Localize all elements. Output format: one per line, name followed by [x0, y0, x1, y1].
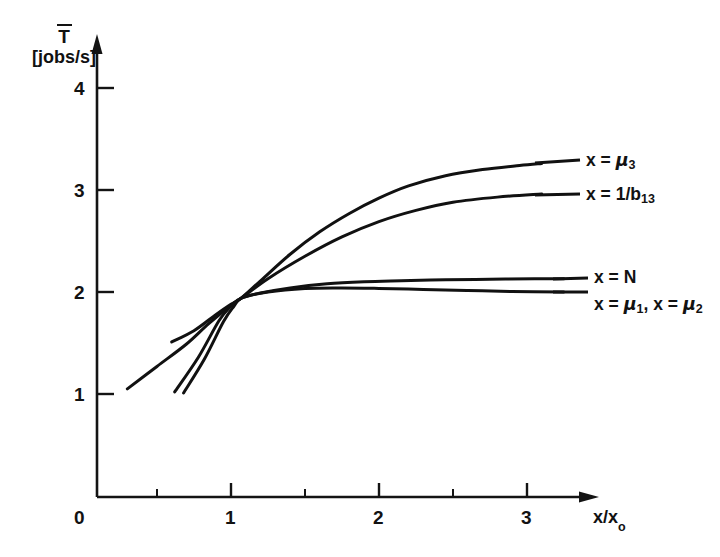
y-tick-label-4: 4: [74, 79, 85, 98]
leader-n: [553, 278, 588, 279]
series-label-n: x = N: [594, 269, 636, 287]
y-axis-ticks: [97, 88, 114, 394]
series-label-mu12-symbol2: μ: [683, 294, 696, 314]
x-axis-ticks: [231, 483, 527, 497]
y-tick-label-3: 3: [74, 181, 85, 200]
x-axis-title: x/xo: [593, 508, 626, 531]
label-leader-lines: [535, 160, 588, 292]
series-label-b13-symbol: b: [630, 184, 641, 204]
series-label-mu3: x = μ3: [586, 152, 636, 170]
x-tick-label-2: 2: [373, 508, 384, 527]
series-label-mu3-symbol: μ: [616, 150, 629, 170]
x-axis-title-main: x/x: [593, 507, 618, 527]
x-axis-title-sub: o: [618, 520, 626, 534]
series-label-b13-prefix: x = 1/: [586, 184, 630, 204]
series-label-mu12-symbol1: μ: [624, 294, 637, 314]
leader-b13: [535, 194, 580, 195]
y-tick-label-2: 2: [74, 283, 85, 302]
series-label-mu12: x = μ1, x = μ2: [594, 296, 703, 314]
y-axis-symbol: T: [57, 24, 72, 47]
x-tick-label-3: 3: [521, 508, 532, 527]
curve-series-2: [184, 279, 564, 393]
series-label-mu12-sub2: 2: [696, 302, 703, 316]
origin-label: 0: [74, 508, 85, 527]
leader-mu3: [535, 160, 580, 163]
data-curves-group: [127, 163, 564, 392]
y-axis-title: T [jobs/s]: [28, 24, 100, 67]
series-label-mu12-middle: , x =: [644, 294, 683, 314]
x-axis-arrow-icon: [579, 492, 599, 503]
series-label-mu3-sub: 3: [629, 158, 636, 172]
series-label-mu12-prefix: x =: [594, 294, 624, 314]
curve-series-3: [175, 288, 564, 392]
series-label-b13-sub: 13: [641, 192, 655, 206]
y-axis-units: [jobs/s]: [28, 48, 100, 67]
x-tick-label-1: 1: [225, 508, 236, 527]
series-label-b13: x = 1/b13: [586, 186, 655, 204]
series-label-mu3-prefix: x =: [586, 150, 616, 170]
series-label-mu12-sub1: 1: [637, 302, 644, 316]
y-tick-label-1: 1: [74, 385, 85, 404]
chart-figure: T [jobs/s] 4 3 2 1 0 1 2 3 x/xo x = μ3 x…: [0, 0, 720, 557]
